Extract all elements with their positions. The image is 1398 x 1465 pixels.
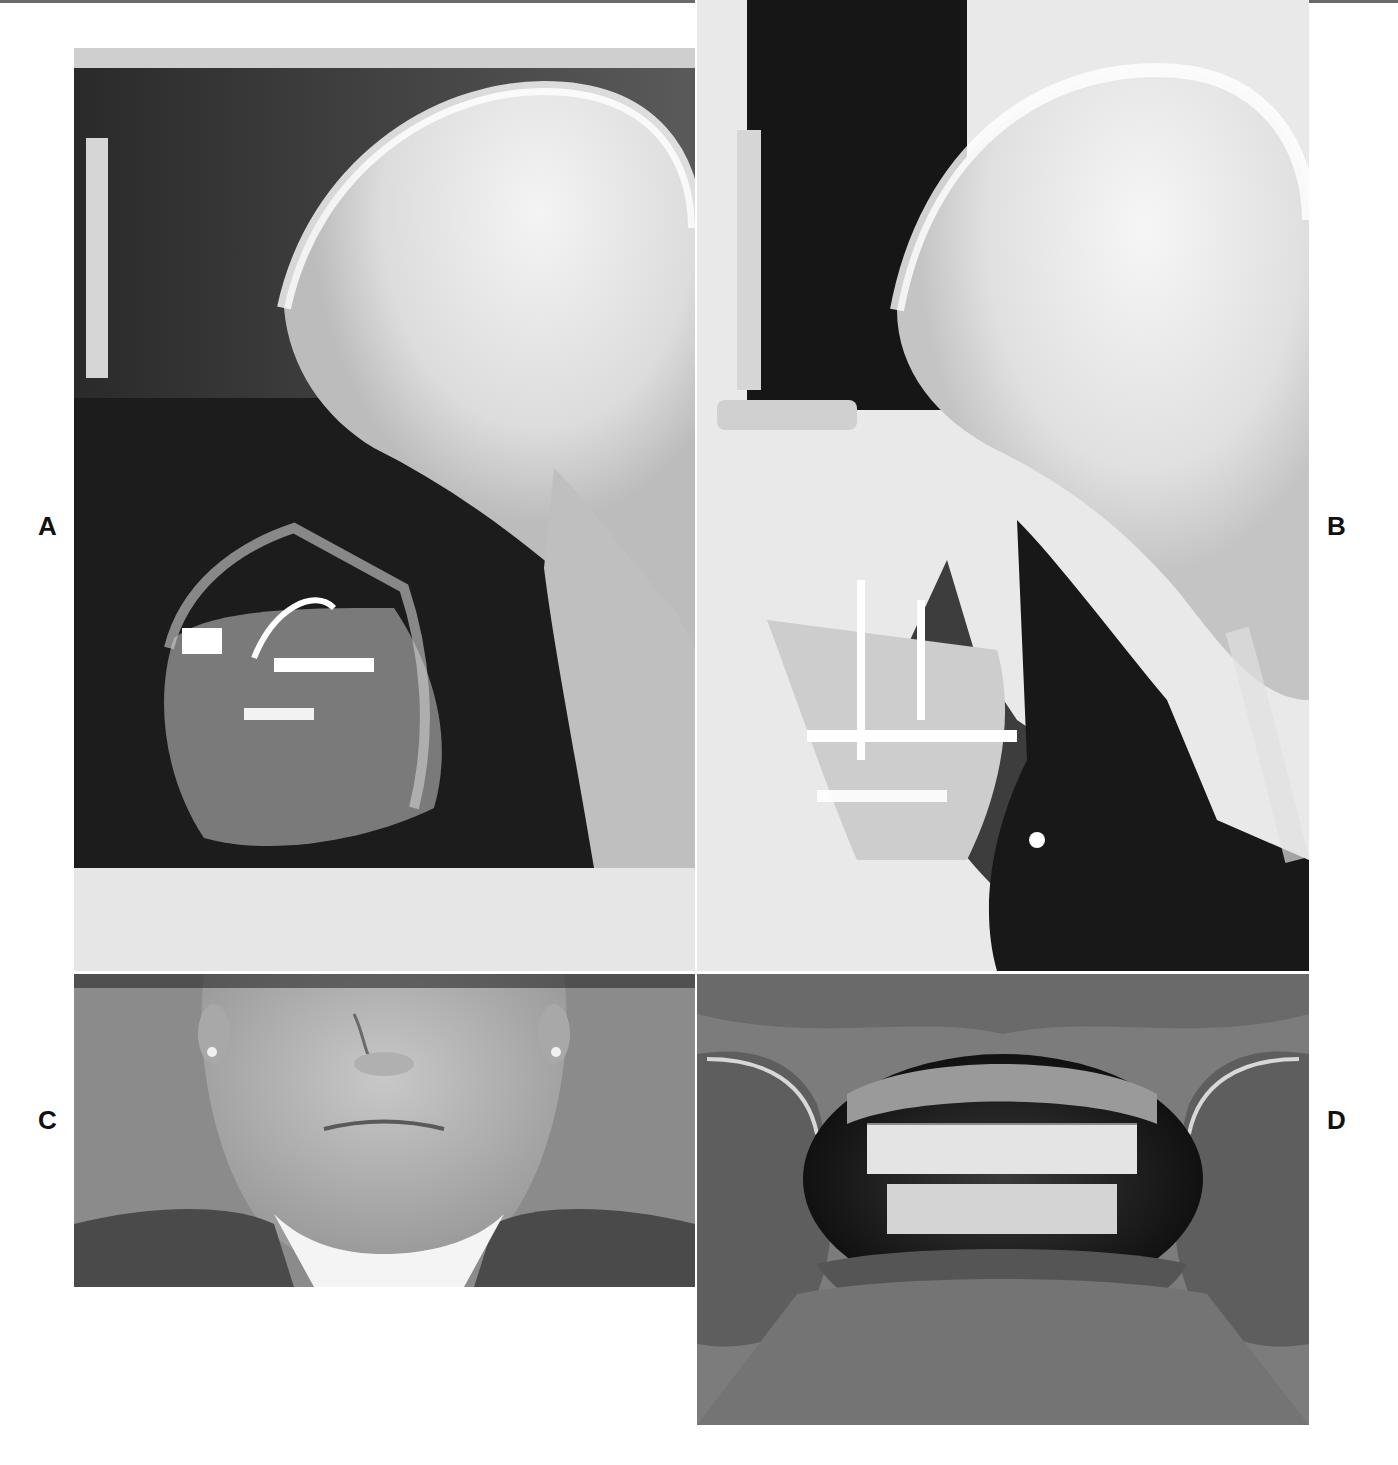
- panel-label-a: A: [38, 513, 57, 539]
- panel-b-radiograph: [697, 0, 1309, 971]
- face-photo-image: [74, 974, 695, 1287]
- panel-label-c: C: [38, 1107, 57, 1133]
- xray-b-image: [697, 0, 1309, 971]
- panel-a-radiograph: [74, 48, 695, 971]
- panel-label-d: D: [1327, 1107, 1346, 1133]
- xray-a-image: [74, 48, 695, 971]
- panel-label-b: B: [1327, 513, 1346, 539]
- panel-d-intraoral-photo: [697, 974, 1309, 1425]
- intraoral-photo-image: [697, 974, 1309, 1425]
- panel-c-face-photo: [74, 974, 695, 1287]
